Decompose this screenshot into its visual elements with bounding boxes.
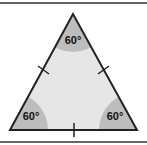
angle-label-top: 60° — [65, 34, 82, 46]
angle-label-bottom-right: 60° — [107, 110, 124, 122]
equilateral-triangle-diagram: 60° 60° 60° — [0, 0, 147, 145]
angle-label-bottom-left: 60° — [23, 110, 40, 122]
